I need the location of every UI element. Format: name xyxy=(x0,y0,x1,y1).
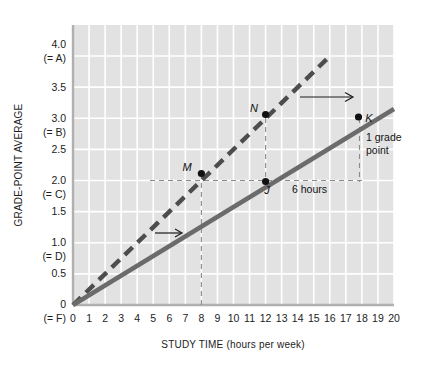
x-tick-12: 12 xyxy=(260,312,272,324)
data-point-n xyxy=(262,111,269,118)
rise-annotation-line1: 1 grade xyxy=(366,131,402,143)
x-tick-19: 19 xyxy=(372,312,384,324)
y-tick-0: 0 xyxy=(60,298,66,310)
point-label-m: M xyxy=(182,161,192,173)
x-tick-17: 17 xyxy=(340,312,352,324)
x-tick-6: 6 xyxy=(166,312,172,324)
y-tick-2.0: 2.0 xyxy=(51,174,66,186)
point-label-n: N xyxy=(250,102,258,114)
x-tick-15: 15 xyxy=(308,312,320,324)
run-annotation: 6 hours xyxy=(292,183,327,195)
y-tick-labels: 4.0 (= A) 3.5 3.0 (= B) 2.5 2.0 (= C) 1.… xyxy=(42,38,66,324)
x-tick-7: 7 xyxy=(182,312,188,324)
x-tick-11: 11 xyxy=(244,312,255,324)
x-axis-title: STUDY TIME (hours per week) xyxy=(161,339,304,350)
x-tick-9: 9 xyxy=(215,312,221,324)
x-tick-14: 14 xyxy=(292,312,304,324)
chart-container: M N J K 1 grade point 6 hours 4.0 (= A) … xyxy=(0,0,430,368)
y-tick-4.0: 4.0 xyxy=(51,38,66,50)
y-tick-3.0-grade: (= B) xyxy=(43,126,66,138)
x-tick-labels: 0 1 2 3 4 5 6 7 8 9 10 11 12 13 14 15 16… xyxy=(70,312,400,324)
x-tick-0: 0 xyxy=(70,312,76,324)
x-tick-8: 8 xyxy=(198,312,204,324)
x-tick-2: 2 xyxy=(102,312,108,324)
x-tick-13: 13 xyxy=(276,312,288,324)
x-tick-5: 5 xyxy=(150,312,156,324)
data-point-k xyxy=(355,113,362,120)
data-point-m xyxy=(198,170,205,177)
y-tick-1.0: 1.0 xyxy=(51,236,66,248)
study-time-gpa-chart: M N J K 1 grade point 6 hours 4.0 (= A) … xyxy=(0,0,430,368)
y-tick-2.0-grade: (= C) xyxy=(42,188,66,200)
x-tick-16: 16 xyxy=(324,312,336,324)
y-tick-2.5: 2.5 xyxy=(51,143,66,155)
y-tick-1.5: 1.5 xyxy=(51,205,66,217)
point-label-k: K xyxy=(365,112,373,124)
y-tick-0-grade: (= F) xyxy=(44,312,66,324)
vertical-gridlines xyxy=(73,25,394,305)
x-tick-10: 10 xyxy=(228,312,240,324)
y-tick-4.0-grade: (= A) xyxy=(44,52,66,64)
x-tick-20: 20 xyxy=(388,312,400,324)
x-tick-4: 4 xyxy=(134,312,140,324)
y-axis-title: GRADE-POINT AVERAGE xyxy=(13,103,24,226)
y-tick-3.5: 3.5 xyxy=(51,81,66,93)
y-tick-1.0-grade: (= D) xyxy=(42,250,66,262)
point-label-j: J xyxy=(263,184,270,196)
x-tick-3: 3 xyxy=(118,312,124,324)
rise-annotation-line2: point xyxy=(366,144,389,156)
x-tick-18: 18 xyxy=(356,312,368,324)
y-tick-0.5: 0.5 xyxy=(51,267,66,279)
x-tick-1: 1 xyxy=(86,312,92,324)
y-tick-3.0: 3.0 xyxy=(51,112,66,124)
